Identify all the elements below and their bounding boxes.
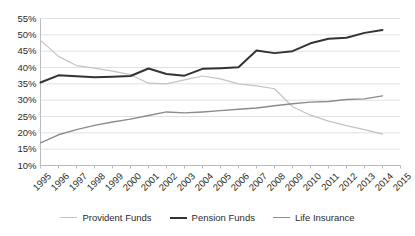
- series-line-pension-funds: [41, 30, 383, 83]
- gridlines: [41, 19, 401, 166]
- legend-label: Life Insurance: [295, 212, 355, 223]
- y-axis-tick-label: 45%: [17, 46, 36, 56]
- legend-item[interactable]: Life Insurance: [273, 212, 355, 223]
- y-axis-tick-label: 25%: [17, 112, 36, 122]
- chart-container: 55%50%45%40%35%30%25%20%15%10% 199519961…: [0, 0, 415, 236]
- legend-label: Pension Funds: [192, 212, 255, 223]
- legend-item[interactable]: Pension Funds: [170, 212, 255, 223]
- y-axis-tick-label: 50%: [17, 30, 36, 40]
- legend-label: Provident Funds: [82, 212, 151, 223]
- legend-line-icon: [273, 217, 290, 218]
- legend-line-icon: [60, 217, 77, 218]
- series-lines: [41, 30, 383, 143]
- y-axis-tick-label: 30%: [17, 95, 36, 105]
- legend-line-icon: [170, 217, 187, 219]
- y-axis-tick-label: 20%: [17, 128, 36, 138]
- y-axis-tick-label: 10%: [17, 161, 36, 171]
- y-axis-tick-label: 15%: [17, 144, 36, 154]
- x-tick-marks: [41, 166, 401, 169]
- chart-legend: Provident FundsPension FundsLife Insuran…: [0, 212, 415, 223]
- axis-lines: [41, 19, 401, 166]
- legend-item[interactable]: Provident Funds: [60, 212, 151, 223]
- series-line-provident-funds: [41, 40, 383, 134]
- series-line-life-insurance: [41, 96, 383, 143]
- y-axis-tick-label: 40%: [17, 63, 36, 73]
- y-axis-tick-label: 35%: [17, 79, 36, 89]
- y-axis-tick-label: 55%: [17, 14, 36, 24]
